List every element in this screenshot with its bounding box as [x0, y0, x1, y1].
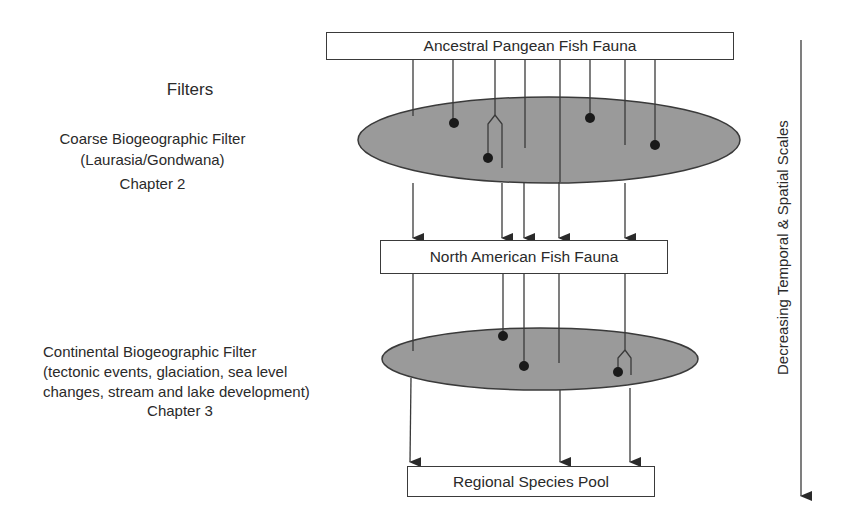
north-american-fauna-box: North American Fish Fauna: [380, 240, 668, 274]
coarse-filter-chapter: Chapter 2: [30, 174, 275, 193]
regional-species-pool-box: Regional Species Pool: [407, 466, 655, 497]
north-american-fauna-label: North American Fish Fauna: [430, 248, 619, 266]
coarse-filter-ellipse: [358, 97, 740, 183]
ancestral-fauna-label: Ancestral Pangean Fish Fauna: [424, 37, 637, 55]
ancestral-fauna-box: Ancestral Pangean Fish Fauna: [326, 32, 734, 60]
continental-filter-chapter: Chapter 3: [120, 401, 240, 420]
regional-species-pool-label: Regional Species Pool: [453, 473, 609, 491]
continental-filter-title: Continental Biogeographic Filter: [43, 342, 383, 361]
coarse-filter-title: Coarse Biogeographic Filter: [30, 129, 275, 148]
continental-filter-line3: changes, stream and lake development): [43, 382, 383, 401]
coarse-filter-subtitle: (Laurasia/Gondwana): [30, 150, 275, 169]
continental-filter-line2: (tectonic events, glaciation, sea level: [43, 362, 383, 381]
filters-heading: Filters: [110, 80, 270, 99]
scale-axis-label: Decreasing Temporal & Spatial Scales: [774, 120, 791, 375]
continental-filter-ellipse: [382, 328, 698, 390]
